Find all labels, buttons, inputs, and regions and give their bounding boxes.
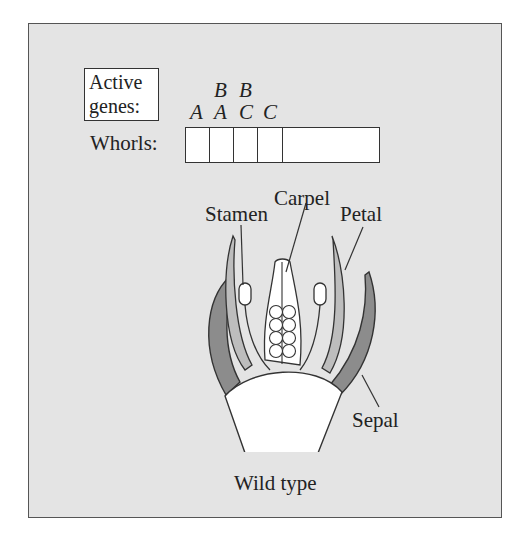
flower-diagram <box>0 0 522 538</box>
stamen-label: Stamen <box>205 204 268 225</box>
stamen-anther-right <box>314 283 326 305</box>
sepal-label: Sepal <box>352 410 399 431</box>
stamen-filament-right <box>300 305 320 370</box>
leader-sepal <box>362 375 379 407</box>
petal-label: Petal <box>340 204 382 225</box>
caption-wild-type: Wild type <box>234 473 317 494</box>
leader-stamen <box>241 225 243 285</box>
carpel-label: Carpel <box>274 188 330 209</box>
leader-petal <box>345 227 363 270</box>
receptacle <box>225 372 342 453</box>
leader-carpel <box>286 203 306 272</box>
petal-right <box>322 236 344 373</box>
stamen-anther-left <box>239 283 251 305</box>
